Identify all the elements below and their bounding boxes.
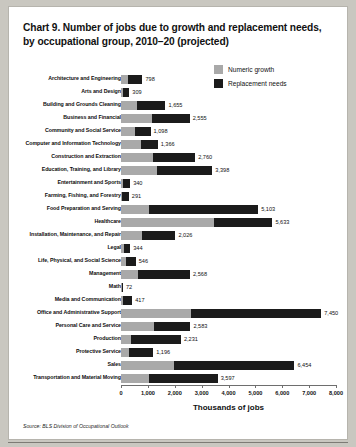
bar-value-label: 2,026 <box>178 232 192 238</box>
x-tick-label: 1,000 <box>141 390 155 396</box>
bar-segment-replacement-needs <box>149 205 258 214</box>
bar-segment-replacement-needs <box>137 101 165 110</box>
stacked-bar <box>121 244 130 253</box>
bar-row: Education, Training, and Library3,398 <box>9 164 348 177</box>
bar-value-label: 1,196 <box>156 349 170 355</box>
category-label: Food Preparation and Serving <box>8 205 121 211</box>
bar-value-label: 2,555 <box>193 115 207 121</box>
stacked-bar <box>121 75 142 84</box>
x-axis-title: Thousands of jobs <box>121 403 336 412</box>
bar-value-label: 6,454 <box>297 362 311 368</box>
bar-value-label: 7,450 <box>324 310 338 316</box>
bar-row: Community and Social Service1,098 <box>9 125 348 138</box>
stacked-bar <box>121 140 158 149</box>
category-label: Math <box>8 283 121 289</box>
x-tick-label: 0 <box>119 390 122 396</box>
bar-value-label: 798 <box>145 76 154 82</box>
stacked-bar <box>121 257 136 266</box>
bar-row: Computer and Information Technology1,366 <box>9 138 348 151</box>
stacked-bar <box>121 166 212 175</box>
category-label: Healthcare <box>8 218 121 224</box>
category-label: Transportation and Material Moving <box>8 374 121 380</box>
bar-value-label: 2,568 <box>193 271 207 277</box>
bar-row: Installation, Maintenance, and Repair2,0… <box>9 229 348 242</box>
bar-row: Production2,231 <box>9 333 348 346</box>
plot-area: Architecture and Engineering798Arts and … <box>9 7 348 440</box>
stacked-bar <box>121 361 294 370</box>
category-label: Education, Training, and Library <box>8 166 121 172</box>
x-tick-mark <box>336 385 337 388</box>
category-label: Life, Physical, and Social Science <box>8 257 121 263</box>
bar-value-label: 340 <box>133 180 142 186</box>
bar-segment-replacement-needs <box>153 153 196 162</box>
stacked-bar <box>121 348 153 357</box>
source-note: Source: BLS Division of Occupational Out… <box>23 423 129 429</box>
bar-row: Healthcare5,633 <box>9 216 348 229</box>
bar-value-label: 1,655 <box>168 102 182 108</box>
bar-row: Building and Grounds Cleaning1,655 <box>9 99 348 112</box>
category-label: Production <box>8 335 121 341</box>
bar-value-label: 344 <box>133 245 142 251</box>
bar-value-label: 309 <box>132 89 141 95</box>
bar-row: Office and Administrative Support7,450 <box>9 307 348 320</box>
stacked-bar <box>121 296 132 305</box>
bar-segment-numeric-growth <box>121 270 138 279</box>
category-label: Installation, Maintenance, and Repair <box>8 231 121 237</box>
bar-segment-replacement-needs <box>122 283 123 292</box>
bar-segment-replacement-needs <box>138 270 190 279</box>
stacked-bar <box>121 218 272 227</box>
category-label: Protective Service <box>8 348 121 354</box>
bar-row: Protective Service1,196 <box>9 346 348 359</box>
x-tick-mark <box>148 385 149 388</box>
bar-segment-replacement-needs <box>123 179 130 188</box>
category-label: Arts and Design <box>8 88 121 94</box>
stacked-bar <box>121 335 181 344</box>
stacked-bar <box>121 88 129 97</box>
bar-segment-numeric-growth <box>121 309 191 318</box>
category-label: Computer and Information Technology <box>8 140 121 146</box>
bar-value-label: 2,583 <box>193 323 207 329</box>
bar-value-label: 2,760 <box>198 154 212 160</box>
bar-row: Math72 <box>9 281 348 294</box>
bar-value-label: 72 <box>126 284 132 290</box>
stacked-bar <box>121 114 190 123</box>
bar-segment-numeric-growth <box>121 205 149 214</box>
category-label: Management <box>8 270 121 276</box>
stacked-bar <box>121 153 195 162</box>
category-label: Personal Care and Service <box>8 322 121 328</box>
bar-segment-replacement-needs <box>214 218 273 227</box>
stacked-bar <box>121 101 165 110</box>
category-label: Construction and Extraction <box>8 153 121 159</box>
bottom-divider <box>8 442 348 443</box>
bar-segment-replacement-needs <box>123 88 130 97</box>
bar-segment-replacement-needs <box>126 257 136 266</box>
stacked-bar <box>121 270 190 279</box>
bar-segment-replacement-needs <box>124 244 130 253</box>
category-label: Building and Grounds Cleaning <box>8 101 121 107</box>
bar-row: Entertainment and Sports340 <box>9 177 348 190</box>
bar-row: Architecture and Engineering798 <box>9 73 348 86</box>
x-tick-mark <box>202 385 203 388</box>
x-tick-mark <box>282 385 283 388</box>
stacked-bar <box>121 309 321 318</box>
x-tick-label: 4,000 <box>222 390 236 396</box>
bar-row: Personal Care and Service2,583 <box>9 320 348 333</box>
bar-value-label: 5,633 <box>275 219 289 225</box>
bar-segment-numeric-growth <box>121 140 141 149</box>
bar-value-label: 417 <box>135 297 144 303</box>
x-tick-label: 2,000 <box>168 390 182 396</box>
category-label: Farming, Fishing, and Forestry <box>8 192 121 198</box>
category-label: Architecture and Engineering <box>8 75 121 81</box>
bar-value-label: 291 <box>132 193 141 199</box>
bar-row: Life, Physical, and Social Science546 <box>9 255 348 268</box>
x-tick-mark <box>309 385 310 388</box>
bar-segment-replacement-needs <box>131 335 181 344</box>
bar-row: Transportation and Material Moving3,597 <box>9 372 348 385</box>
bar-value-label: 3,597 <box>221 375 235 381</box>
bar-segment-replacement-needs <box>154 322 190 331</box>
bar-segment-replacement-needs <box>141 140 157 149</box>
bar-segment-numeric-growth <box>121 101 137 110</box>
bar-segment-replacement-needs <box>129 348 153 357</box>
bar-segment-numeric-growth <box>121 348 129 357</box>
x-tick-mark <box>229 385 230 388</box>
